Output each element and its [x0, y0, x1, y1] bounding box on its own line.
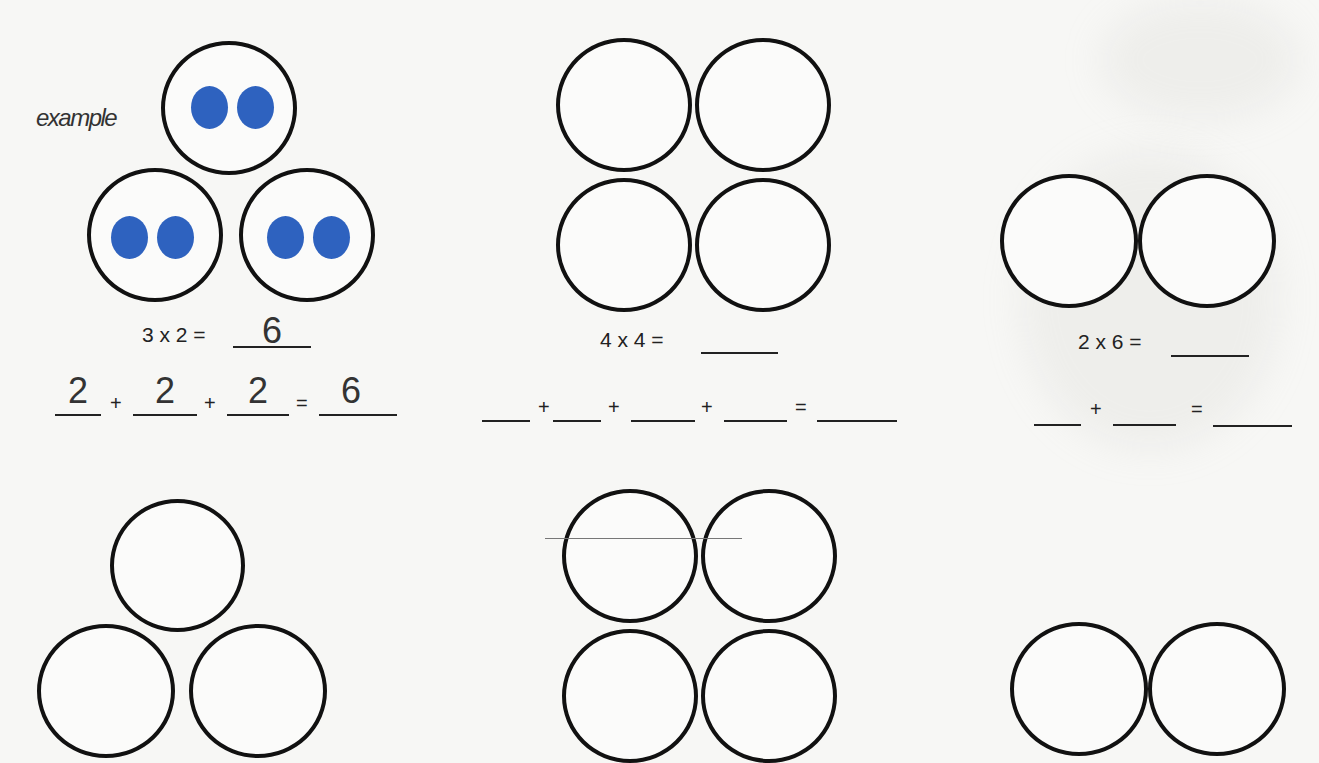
addend-blank[interactable]	[553, 420, 601, 422]
equals-sign: =	[296, 392, 308, 415]
addend-blank[interactable]	[631, 420, 695, 422]
handwritten-sum: 6	[319, 370, 383, 412]
handwritten-addend: 2	[55, 370, 101, 412]
group-circle[interactable]	[695, 38, 831, 172]
answer-blank[interactable]	[701, 352, 778, 354]
paper-smudge	[1100, 0, 1300, 120]
group-circle[interactable]	[556, 178, 692, 312]
multiplication-expression: 3 x 2 =	[142, 323, 206, 347]
addend-blank[interactable]	[1034, 424, 1081, 426]
plus-sign: +	[1090, 398, 1102, 421]
equals-sign: =	[1191, 398, 1203, 421]
group-circle[interactable]	[1148, 622, 1286, 756]
counter-dot	[267, 216, 304, 259]
group-circle[interactable]	[556, 38, 692, 172]
sum-blank[interactable]	[817, 420, 897, 422]
addend-blank[interactable]	[133, 414, 197, 416]
group-circle[interactable]	[701, 629, 837, 763]
group-circle[interactable]	[1138, 174, 1276, 308]
addend-blank[interactable]	[724, 420, 787, 422]
addend-blank[interactable]	[55, 414, 101, 416]
plus-sign: +	[204, 392, 216, 415]
plus-sign: +	[608, 396, 620, 419]
group-circle[interactable]	[37, 624, 175, 758]
group-circle[interactable]	[110, 499, 245, 632]
handwritten-addend: 2	[227, 370, 289, 412]
group-circle	[161, 41, 297, 175]
multiplication-expression: 2 x 6 =	[1078, 330, 1142, 354]
group-circle[interactable]	[562, 629, 698, 763]
example-label: example	[36, 104, 116, 132]
group-circle[interactable]	[695, 178, 831, 312]
stray-pencil-line	[545, 538, 742, 539]
counter-dot	[191, 86, 228, 129]
addend-blank[interactable]	[1113, 424, 1176, 426]
addend-blank[interactable]	[227, 414, 289, 416]
group-circle	[87, 168, 223, 302]
answer-blank[interactable]	[1171, 355, 1249, 357]
handwritten-answer: 6	[233, 310, 311, 352]
counter-dot	[237, 86, 274, 129]
sum-blank[interactable]	[319, 414, 397, 416]
plus-sign: +	[538, 396, 550, 419]
addend-blank[interactable]	[482, 420, 530, 422]
equals-sign: =	[795, 396, 807, 419]
group-circle[interactable]	[189, 624, 327, 758]
plus-sign: +	[701, 396, 713, 419]
group-circle[interactable]	[562, 489, 698, 623]
group-circle[interactable]	[1000, 174, 1138, 308]
sum-blank[interactable]	[1213, 425, 1292, 427]
multiplication-expression: 4 x 4 =	[600, 328, 664, 352]
counter-dot	[157, 216, 194, 259]
counter-dot	[111, 216, 148, 259]
group-circle[interactable]	[701, 489, 837, 623]
counter-dot	[313, 216, 350, 259]
group-circle	[239, 168, 375, 302]
plus-sign: +	[110, 392, 122, 415]
handwritten-addend: 2	[133, 370, 197, 412]
group-circle[interactable]	[1010, 622, 1148, 756]
